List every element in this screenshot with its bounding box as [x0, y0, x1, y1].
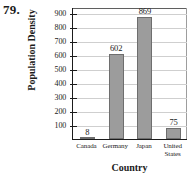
gridline: [73, 42, 187, 43]
bar: [109, 54, 124, 139]
bar: [166, 128, 181, 139]
bar: [80, 137, 95, 139]
gridline: [73, 28, 187, 29]
bar-value-label: 8: [72, 128, 102, 137]
y-axis-tick-mark: [70, 28, 77, 29]
bar: [137, 17, 152, 139]
y-axis-tick-mark: [70, 14, 77, 15]
y-axis-tick-label: 400: [40, 80, 66, 88]
y-axis-tick-label: 700: [40, 38, 66, 46]
y-axis-title: Population Density: [27, 0, 37, 105]
gridline: [73, 70, 187, 71]
y-axis-tick-mark: [70, 56, 77, 57]
y-axis-tick-label: 300: [40, 94, 66, 102]
y-axis-tick-mark: [70, 42, 77, 43]
y-axis-tick-label: 100: [40, 122, 66, 130]
y-axis-tick-mark: [70, 84, 77, 85]
x-axis-category-label: United States: [155, 142, 191, 158]
gridline: [73, 112, 187, 113]
y-axis-tick-label: 900: [40, 10, 66, 18]
x-axis-category-labels: CanadaGermanyJapanUnited States: [68, 142, 192, 160]
gridline: [73, 98, 187, 99]
bar-value-label: 75: [159, 118, 189, 127]
y-axis-tick-mark: [70, 70, 77, 71]
bar-value-label: 602: [101, 44, 131, 53]
plot-area: 860286975: [72, 8, 187, 140]
gridline: [73, 56, 187, 57]
gridline: [73, 84, 187, 85]
y-axis-tick-label: 800: [40, 24, 66, 32]
bar-value-label: 869: [130, 7, 160, 16]
y-axis-tick-label: 500: [40, 66, 66, 74]
y-axis-tick-label: 600: [40, 52, 66, 60]
x-axis-title: Country: [72, 163, 187, 173]
y-axis-tick-mark: [70, 98, 77, 99]
y-axis-tick-label: 200: [40, 108, 66, 116]
y-axis-tick-mark: [70, 112, 77, 113]
y-axis-tick-labels: 100200300400500600700800900: [40, 8, 66, 140]
problem-number: 79.: [3, 3, 20, 16]
